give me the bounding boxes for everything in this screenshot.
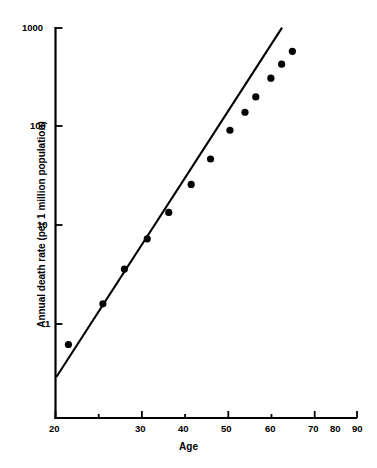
- data-point: [121, 266, 128, 273]
- y-tick-label-1000: 1000: [22, 22, 43, 33]
- data-series-layer: [56, 28, 296, 377]
- x-axis-title: Age: [0, 441, 377, 452]
- data-point: [144, 235, 151, 242]
- data-point: [99, 300, 106, 307]
- data-point: [241, 109, 248, 116]
- x-tick-label-30: 30: [135, 423, 146, 434]
- x-tick-label-50: 50: [221, 423, 232, 434]
- plot-area: [0, 0, 377, 468]
- data-point: [165, 209, 172, 216]
- data-point: [252, 93, 259, 100]
- data-point: [278, 61, 285, 68]
- y-axis-title: Annual death rate (per 1 million populat…: [36, 100, 47, 350]
- data-point: [289, 48, 296, 55]
- x-tick-label-70: 70: [308, 423, 319, 434]
- data-point: [65, 341, 72, 348]
- data-point: [188, 181, 195, 188]
- x-tick-label-60: 60: [265, 423, 276, 434]
- x-tick-label-90: 90: [352, 423, 363, 434]
- x-tick-label-40: 40: [178, 423, 189, 434]
- chart-figure: 1000 100 10 1 20 30 40 50 60 70 80 90 An…: [0, 0, 377, 468]
- x-tick-label-20: 20: [49, 423, 60, 434]
- data-point: [226, 127, 233, 134]
- x-tick-label-80: 80: [330, 423, 341, 434]
- data-point: [267, 75, 274, 82]
- trend-line: [56, 28, 282, 377]
- data-point: [207, 155, 214, 162]
